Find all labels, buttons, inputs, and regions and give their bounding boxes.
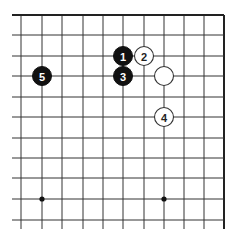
black-stone-5: 5 — [33, 67, 52, 86]
board-grid — [12, 15, 224, 229]
go-board: 12345 — [0, 0, 230, 239]
white-stone-2: 2 — [135, 47, 154, 66]
star-point — [161, 196, 166, 201]
black-stone-3: 3 — [114, 67, 133, 86]
move-number: 4 — [161, 112, 168, 124]
move-number: 2 — [141, 51, 147, 63]
move-number: 5 — [39, 71, 45, 83]
white-stone-4: 4 — [155, 108, 174, 127]
move-number: 1 — [120, 51, 126, 63]
move-number: 3 — [120, 71, 126, 83]
white-stone — [155, 67, 174, 86]
black-stone-1: 1 — [114, 47, 133, 66]
white-stone-icon — [155, 67, 174, 86]
star-point — [39, 196, 44, 201]
